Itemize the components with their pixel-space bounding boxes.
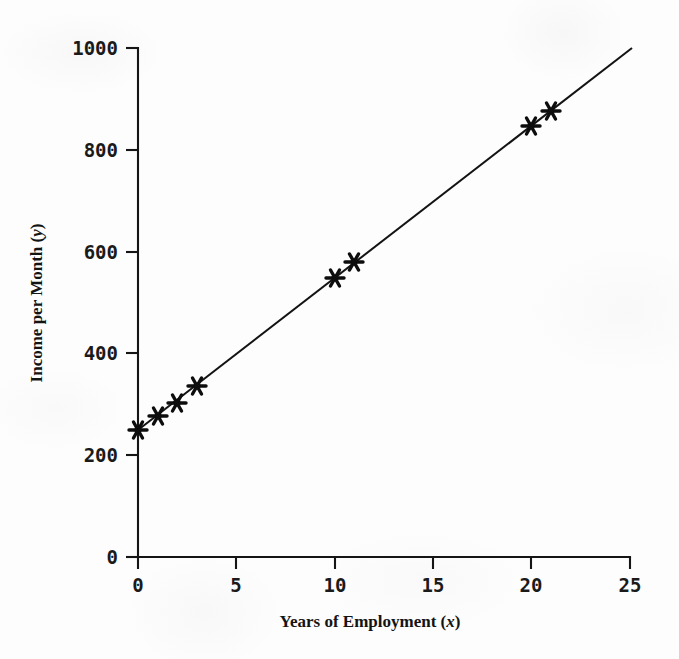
chart-page: 1000 800 600 400 200 0 0 5 10 15 20 25 Y… [0,0,679,659]
y-axis-ticks [126,48,138,557]
x-tick-label-10: 10 [324,574,347,596]
data-point-marker [168,395,186,411]
scatter-plot: 1000 800 600 400 200 0 0 5 10 15 20 25 Y… [0,0,679,659]
y-tick-label-1000: 1000 [72,37,118,59]
y-tick-label-400: 400 [84,342,118,364]
y-tick-label-0: 0 [107,546,118,568]
y-axis-title-text: Income per Month [27,246,46,382]
x-axis-title-variable: x [445,612,455,631]
y-axis-title: Income per Month (y) [27,224,46,383]
regression-line [138,48,632,430]
y-tick-label-200: 200 [84,444,118,466]
y-axis-title-variable: y [27,229,46,239]
y-axis-tick-labels: 1000 800 600 400 200 0 [72,37,118,568]
x-tick-label-20: 20 [520,574,543,596]
x-axis-ticks [138,557,630,569]
x-axis-tick-labels: 0 5 10 15 20 25 [132,574,641,596]
x-axis-title: Years of Employment (x) [280,612,461,631]
x-tick-label-5: 5 [230,574,241,596]
x-tick-label-0: 0 [132,574,143,596]
x-tick-label-15: 15 [422,574,445,596]
x-tick-label-25: 25 [619,574,642,596]
y-tick-label-800: 800 [84,139,118,161]
x-axis-title-text: Years of Employment [280,612,437,631]
y-tick-label-600: 600 [84,241,118,263]
